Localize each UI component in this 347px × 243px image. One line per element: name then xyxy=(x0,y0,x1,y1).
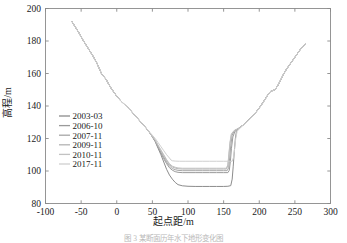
x-tick-marks xyxy=(46,9,331,204)
y-axis-title: 高程/m xyxy=(0,73,14,133)
data-series-lines xyxy=(72,22,306,187)
series-line xyxy=(72,22,306,162)
figure-caption: 图 3 某断面历年水下地形变化图 xyxy=(0,232,347,243)
y-tick-labels: 80100120140160180200 xyxy=(27,4,42,209)
legend-label: 2003-03 xyxy=(73,111,103,121)
legend-label: 2007-11 xyxy=(73,131,103,141)
y-tick-label: 180 xyxy=(27,36,42,46)
y-tick-label: 80 xyxy=(32,199,42,209)
x-axis-title: 起点距/m xyxy=(0,213,347,228)
series-line xyxy=(72,22,306,171)
series-line xyxy=(72,22,306,169)
legend-label: 2017-11 xyxy=(73,159,103,169)
chart-legend: 2003-032006-102007-112009-112010-112017-… xyxy=(59,111,103,169)
legend-label: 2010-11 xyxy=(73,150,103,160)
y-tick-label: 120 xyxy=(27,134,42,144)
series-line xyxy=(72,22,306,173)
y-tick-label: 200 xyxy=(27,4,42,14)
legend-label: 2006-10 xyxy=(73,121,103,131)
legend-label: 2009-11 xyxy=(73,140,103,150)
y-tick-label: 160 xyxy=(27,69,42,79)
y-tick-marks xyxy=(46,9,331,204)
y-tick-label: 100 xyxy=(27,166,42,176)
series-line xyxy=(72,22,306,170)
y-tick-label: 140 xyxy=(27,101,42,111)
axes-frame xyxy=(46,9,331,204)
